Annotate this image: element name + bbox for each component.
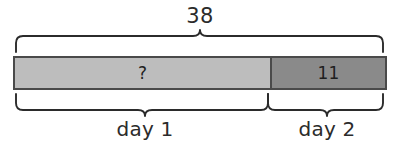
- bar-segment-unknown: ?: [15, 58, 270, 88]
- bar-model-diagram: 38 ? 11 day 1 day 2: [0, 0, 397, 152]
- total-value-label: 38: [170, 4, 230, 28]
- part-1-caption: day 1: [95, 117, 195, 141]
- bar: ? 11: [13, 56, 387, 90]
- segment-2-label: 11: [317, 63, 339, 83]
- segment-1-label: ?: [138, 63, 147, 83]
- total-brace: [16, 30, 383, 52]
- part-1-brace: [16, 94, 268, 116]
- bar-segment-known: 11: [270, 58, 385, 88]
- part-2-brace: [268, 94, 383, 116]
- part-2-caption: day 2: [277, 117, 377, 141]
